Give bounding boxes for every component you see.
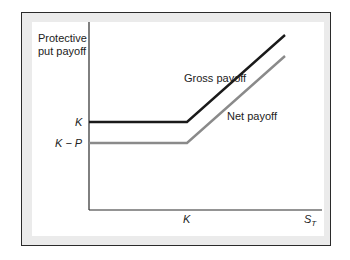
y-tick-k: K xyxy=(75,116,82,129)
y-axis-label-line2: put payoff xyxy=(38,45,87,58)
net-payoff-annotation: Net payoff xyxy=(227,110,277,123)
y-tick-k-minus-p: K − P xyxy=(55,137,82,150)
net-payoff-line xyxy=(89,56,285,143)
gross-payoff-annotation: Gross payoff xyxy=(184,72,246,85)
x-tick-k: K xyxy=(183,213,190,226)
x-axis-label: ST xyxy=(304,213,316,230)
y-axis-label: Protective put payoff xyxy=(38,32,87,58)
x-axis-label-subscript: T xyxy=(311,219,316,228)
y-axis-label-line1: Protective xyxy=(38,32,87,45)
